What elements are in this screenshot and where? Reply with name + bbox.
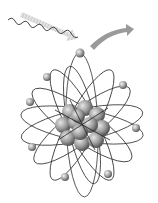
outgoing-electron-arrow-icon [90, 24, 134, 50]
atom-illustration [0, 0, 158, 203]
incoming-light-arrow-icon [20, 12, 77, 41]
